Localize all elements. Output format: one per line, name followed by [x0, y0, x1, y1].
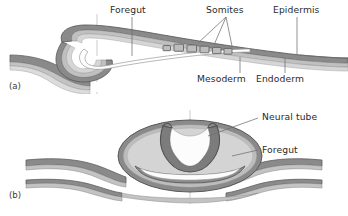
somite-block: [224, 48, 232, 54]
label-foregut-a: Foregut: [110, 5, 146, 14]
panel-b-diagram: [26, 120, 322, 203]
embryo-folding-figure: Foregut Somites Epidermis Mesoderm Endod…: [0, 0, 348, 216]
panel-b-left-wing: [26, 159, 126, 201]
leader-somites-3: [226, 17, 232, 46]
label-foregut-b: Foregut: [262, 145, 298, 154]
panel-label-b: (b): [9, 191, 21, 200]
somite-block: [200, 46, 209, 53]
leader-somites-2: [214, 17, 226, 45]
label-neural-tube: Neural tube: [262, 112, 317, 121]
panel-label-a: (a): [9, 82, 21, 91]
mesoderm-layer-upper: [72, 30, 348, 67]
somite-block: [163, 46, 171, 51]
somite-block: [187, 45, 197, 52]
label-somites: Somites: [206, 5, 244, 14]
figure-canvas: [0, 0, 348, 216]
somite-block: [213, 47, 222, 53]
label-mesoderm: Mesoderm: [197, 74, 246, 83]
label-epidermis: Epidermis: [273, 5, 319, 14]
somite-block: [174, 44, 184, 51]
leader-somites-1: [198, 17, 226, 43]
epidermis-layer-upper: [61, 25, 348, 63]
label-endoderm: Endoderm: [256, 74, 304, 83]
